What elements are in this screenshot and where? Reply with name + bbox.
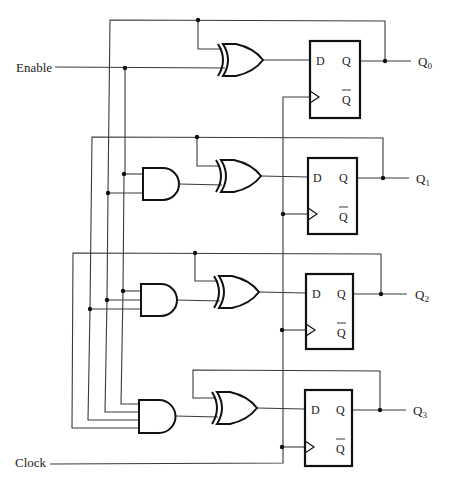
- q-pin-label: Q: [336, 403, 345, 417]
- clock-label: Clock: [15, 455, 47, 470]
- output-label-q3: Q3: [413, 403, 427, 420]
- q-pin-label: Q: [337, 287, 346, 301]
- flipflop-0: D Q Q: [310, 41, 360, 118]
- and2-to-xor2-wire: [177, 300, 220, 301]
- and3-to-xor3-wire: [175, 416, 218, 417]
- d-pin-label: D: [313, 171, 322, 185]
- qbar-pin-label: Q: [337, 326, 346, 340]
- enable-label: Enable: [16, 60, 52, 75]
- d-pin-label: D: [312, 287, 321, 301]
- and-gate-2: [141, 284, 177, 316]
- xor-gate-1: [216, 160, 261, 192]
- qbar-pin-label: Q: [336, 442, 345, 456]
- flipflop-2: D Q Q: [306, 274, 353, 349]
- xor-gate-0: [218, 44, 263, 76]
- output-label-q2: Q2: [415, 287, 429, 304]
- output-label-q1: Q1: [416, 171, 430, 188]
- xor-gate-2: [214, 276, 259, 308]
- xor3-to-d3-wire: [257, 408, 305, 409]
- clock-wire: [50, 97, 310, 464]
- d-pin-label: D: [316, 54, 325, 68]
- xor1-to-d1-wire: [261, 176, 308, 177]
- enable-bus: [121, 68, 139, 404]
- xor-gate-3: [212, 392, 257, 424]
- counter-circuit-diagram: Enable Clock: [0, 0, 452, 484]
- qbar-pin-label: Q: [342, 93, 351, 107]
- and-gate-3: [139, 400, 176, 433]
- and1-to-xor1-wire: [180, 184, 222, 185]
- and-gate-1: [143, 168, 179, 200]
- flipflop-1: D Q Q: [308, 158, 357, 234]
- q-pin-label: Q: [339, 171, 348, 185]
- enable-wire: [55, 67, 225, 68]
- output-label-q0: Q0: [418, 54, 432, 71]
- d-pin-label: D: [311, 403, 320, 417]
- qbar-pin-label: Q: [339, 210, 348, 224]
- flipflop-3: D Q Q: [305, 390, 352, 466]
- q-pin-label: Q: [342, 54, 351, 68]
